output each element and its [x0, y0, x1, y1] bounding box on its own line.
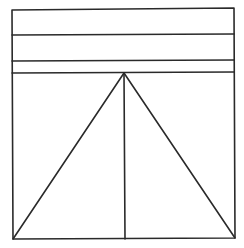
band-line-3 — [12, 72, 234, 73]
center-vertical-line — [124, 73, 125, 239]
diagram-figure — [0, 0, 244, 248]
band-line-1 — [12, 34, 234, 35]
diagram-background — [0, 0, 244, 248]
band-line-2 — [12, 60, 234, 61]
diagram-canvas — [0, 0, 244, 248]
